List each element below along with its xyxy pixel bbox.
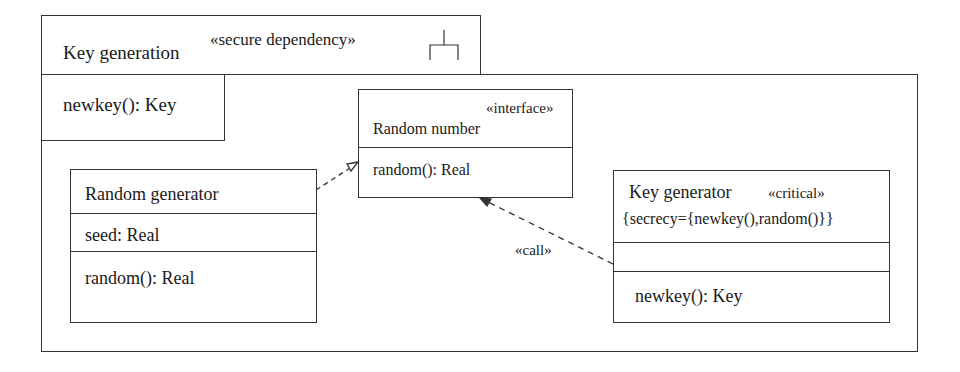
realization-arrow[interactable] <box>316 162 358 190</box>
call-dependency-arrow[interactable] <box>480 198 613 264</box>
connectors-layer <box>0 0 960 372</box>
dependency-glyph-icon <box>430 30 458 60</box>
